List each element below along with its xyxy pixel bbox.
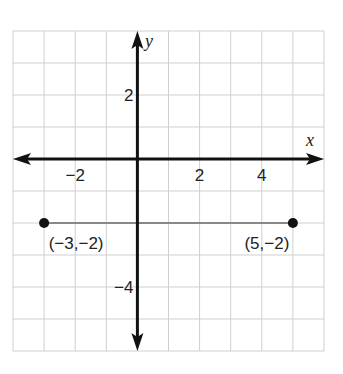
point-label: (−3,−2) bbox=[49, 234, 104, 253]
x-tick-label: 4 bbox=[257, 166, 266, 185]
x-tick-label: 2 bbox=[195, 166, 204, 185]
grid-lines bbox=[13, 31, 324, 351]
y-tick-label: −4 bbox=[114, 278, 133, 297]
y-tick-label: 2 bbox=[124, 86, 133, 105]
data-point bbox=[288, 218, 298, 228]
y-axis-label: y bbox=[143, 31, 153, 51]
data-point bbox=[39, 218, 49, 228]
point-label: (5,−2) bbox=[244, 234, 289, 253]
coordinate-plane: −2242−4 (−3,−2)(5,−2) x y bbox=[0, 0, 343, 374]
x-tick-label: −2 bbox=[66, 166, 85, 185]
x-axis-label: x bbox=[305, 130, 314, 150]
